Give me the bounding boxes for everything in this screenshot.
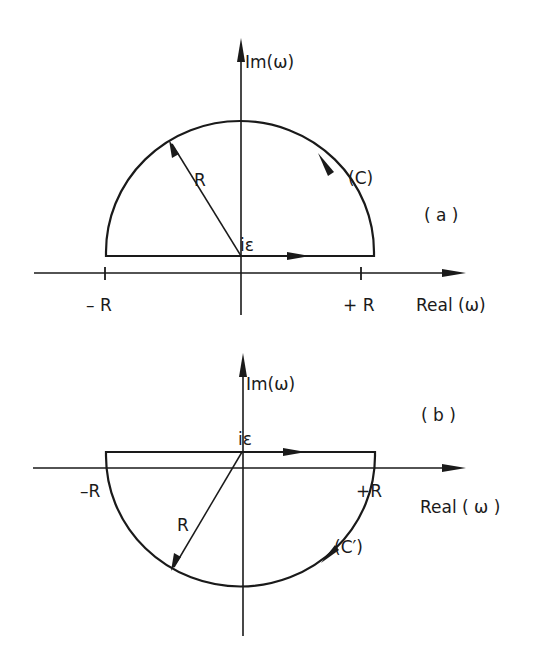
origin-label-a: iε: [240, 235, 254, 255]
neg-r-label-b: –R: [80, 481, 101, 501]
panel-a: Im(ω) R (C) ( a ) iε – R + R Real (ω): [34, 38, 486, 315]
real-axis-label-b: Real ( ω ): [420, 497, 500, 517]
radius-line-b: [174, 452, 242, 567]
im-axis-label-b: Im(ω): [246, 374, 295, 394]
baseline-arrow-icon-b: [283, 448, 306, 456]
origin-label-b: iε: [238, 429, 252, 449]
panel-label-a: ( a ): [424, 205, 459, 225]
contour-c-prime: [106, 452, 375, 586]
baseline-arrow-icon-a: [287, 252, 310, 260]
panel-label-b: ( b ): [421, 405, 456, 425]
contour-label-a: (C): [348, 168, 373, 188]
im-axis-arrow-icon-a: [237, 38, 245, 62]
radius-line-a: [172, 144, 241, 256]
radius-label-b: R: [177, 515, 189, 535]
radius-arrow-icon-b: [171, 553, 181, 571]
contour-integration-figure: Im(ω) R (C) ( a ) iε – R + R Real (ω) Im…: [0, 0, 541, 656]
panel-b: Im(ω) ( b ) iε –R +R Real ( ω ) R (C′): [33, 353, 500, 636]
pos-r-label-b: +R: [356, 481, 382, 501]
radius-label-a: R: [194, 170, 206, 190]
pos-r-label-a: + R: [343, 295, 375, 315]
contour-label-b: (C′): [334, 537, 363, 557]
real-axis-arrow-icon-b: [442, 464, 466, 472]
im-axis-label-a: Im(ω): [245, 52, 294, 72]
real-axis-label-a: Real (ω): [416, 295, 486, 315]
real-axis-arrow-icon-a: [442, 269, 466, 277]
radius-arrow-icon-a: [169, 140, 179, 158]
neg-r-label-a: – R: [86, 295, 112, 315]
